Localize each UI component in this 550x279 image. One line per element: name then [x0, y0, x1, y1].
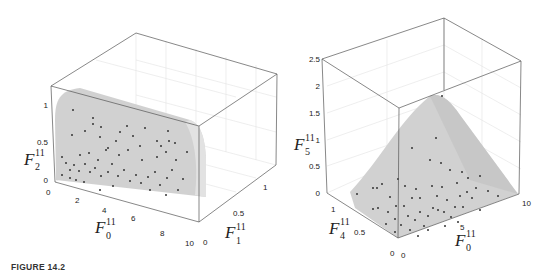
left-z-ticks: 1 0.5 0: [37, 101, 49, 185]
svg-text:1: 1: [316, 136, 321, 145]
svg-text:0: 0: [390, 249, 395, 258]
svg-text:10: 10: [185, 239, 194, 248]
svg-text:0: 0: [46, 188, 51, 197]
svg-text:0.5: 0.5: [354, 228, 366, 237]
svg-text:5: 5: [305, 146, 310, 157]
svg-text:11: 11: [340, 216, 350, 227]
svg-text:F: F: [23, 150, 35, 169]
svg-text:2.5: 2.5: [309, 55, 321, 64]
right-x-label: F 0 11: [454, 228, 476, 253]
svg-text:6: 6: [131, 214, 136, 223]
svg-text:8: 8: [160, 229, 165, 238]
right-z-label: F 5 11: [293, 132, 315, 157]
left-z-label: F 2 11: [23, 147, 45, 172]
svg-text:1: 1: [236, 235, 241, 246]
svg-text:11: 11: [466, 228, 476, 239]
svg-text:1.5: 1.5: [309, 109, 321, 118]
svg-text:0.5: 0.5: [233, 209, 245, 218]
right-3d-plot: 2.5 2 1.5 1 0.5 0 1 0.5 0 0 5 10 F 5 11 …: [293, 18, 531, 260]
svg-text:2: 2: [75, 196, 80, 205]
svg-text:1: 1: [44, 101, 49, 110]
svg-text:0.5: 0.5: [309, 162, 321, 171]
svg-text:0: 0: [106, 230, 111, 241]
svg-text:1: 1: [331, 205, 336, 214]
left-y-label: F 1 11: [224, 221, 246, 246]
figure-caption: FIGURE 14.2: [11, 262, 65, 272]
svg-text:11: 11: [35, 147, 45, 158]
left-3d-plot: 1 0.5 0 0 2 4 6 8 10 0 0.5 1 F 2 11 F 0 …: [23, 33, 277, 248]
figure-canvas: 1 0.5 0 0 2 4 6 8 10 0 0.5 1 F 2 11 F 0 …: [0, 0, 550, 279]
svg-text:F: F: [94, 218, 106, 237]
svg-text:F: F: [328, 219, 340, 238]
svg-text:0.5: 0.5: [37, 138, 49, 147]
svg-text:4: 4: [340, 230, 345, 241]
svg-text:0: 0: [203, 238, 208, 247]
svg-text:0: 0: [401, 251, 406, 260]
svg-text:0: 0: [44, 176, 49, 185]
svg-text:10: 10: [522, 199, 531, 208]
left-x-label: F 0 11: [94, 216, 116, 241]
svg-text:4: 4: [102, 206, 107, 215]
svg-text:0: 0: [316, 189, 321, 198]
svg-text:11: 11: [236, 221, 246, 232]
right-z-ticks: 2.5 2 1.5 1 0.5 0: [309, 55, 321, 198]
left-x-ticks: 0 2 4 6 8 10: [46, 188, 194, 248]
svg-text:0: 0: [466, 242, 471, 253]
svg-text:11: 11: [305, 132, 315, 143]
svg-text:2: 2: [316, 82, 321, 91]
right-y-label: F 4 11: [328, 216, 350, 241]
svg-text:1: 1: [263, 183, 268, 192]
svg-text:F: F: [224, 223, 236, 242]
svg-text:F: F: [454, 231, 466, 250]
svg-text:F: F: [293, 135, 305, 154]
svg-text:11: 11: [106, 216, 116, 227]
svg-text:2: 2: [35, 161, 40, 172]
